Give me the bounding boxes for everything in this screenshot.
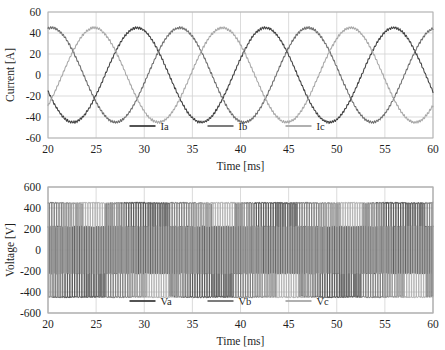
y-axis-title: Voltage [V] (4, 223, 17, 277)
x-tick-label: 55 (379, 143, 391, 155)
x-tick-label: 30 (139, 318, 151, 330)
legend-label-ia: Ia (161, 121, 169, 132)
x-tick-label: 40 (235, 143, 247, 155)
x-tick-label: 20 (42, 143, 54, 155)
x-tick-label: 45 (283, 318, 295, 330)
legend-label-ib: Ib (239, 121, 248, 132)
x-tick-label: 35 (187, 143, 199, 155)
y-tick-label: -400 (20, 286, 41, 298)
y-tick-label: 600 (24, 181, 42, 193)
legend-label-va: Va (161, 296, 172, 307)
x-tick-label: 45 (283, 143, 295, 155)
y-tick-label: 0 (35, 244, 41, 256)
legend-label-vb: Vb (239, 296, 252, 307)
y-tick-label: -20 (26, 90, 42, 102)
y-tick-label: -60 (26, 132, 42, 144)
y-tick-label: 200 (24, 223, 42, 235)
x-tick-label: 60 (427, 318, 439, 330)
figure-root: 6040200-20-40-60202530354045505560Time [… (0, 0, 445, 350)
x-tick-label: 40 (235, 318, 247, 330)
x-tick-label: 25 (90, 318, 102, 330)
x-tick-label: 20 (42, 318, 54, 330)
x-tick-label: 50 (331, 318, 343, 330)
current-chart-panel: 6040200-20-40-60202530354045505560Time [… (0, 0, 445, 175)
x-tick-label: 60 (427, 143, 439, 155)
legend-item-va[interactable]: Va (130, 296, 172, 307)
x-tick-label: 25 (90, 143, 102, 155)
voltage-chart-panel: 6004002000-200-400-600202530354045505560… (0, 175, 445, 350)
x-axis-title: Time [ms] (217, 335, 265, 347)
voltage-chart-svg: 6004002000-200-400-600202530354045505560… (0, 175, 445, 350)
legend-item-ib[interactable]: Ib (208, 121, 248, 132)
x-tick-label: 35 (187, 318, 199, 330)
y-tick-label: -40 (26, 111, 42, 123)
legend-label-ic: Ic (317, 121, 325, 132)
legend-label-vc: Vc (317, 296, 330, 307)
y-tick-label: 400 (24, 202, 42, 214)
y-tick-label: 20 (30, 48, 42, 60)
x-tick-label: 30 (139, 143, 151, 155)
y-tick-label: -600 (20, 307, 41, 319)
x-tick-label: 55 (379, 318, 391, 330)
x-tick-label: 50 (331, 143, 343, 155)
y-tick-label: -200 (20, 265, 41, 277)
y-tick-label: 60 (30, 6, 42, 18)
legend-item-ia[interactable]: Ia (130, 121, 169, 132)
y-tick-label: 0 (35, 69, 41, 81)
y-tick-label: 40 (30, 27, 42, 39)
current-chart-svg: 6040200-20-40-60202530354045505560Time [… (0, 0, 445, 175)
y-axis-title: Current [A] (4, 48, 16, 102)
legend-item-ic[interactable]: Ic (286, 121, 325, 132)
x-axis-title: Time [ms] (217, 160, 265, 172)
